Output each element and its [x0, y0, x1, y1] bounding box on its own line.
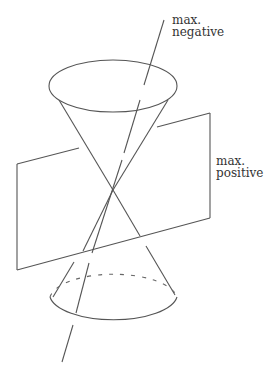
lower-cone-right-side-upper	[113, 190, 140, 236]
axis-lower-inner-segment	[76, 263, 89, 313]
lower-cone-rim-back	[50, 274, 177, 297]
upper-cone-rim	[49, 60, 177, 112]
axis-label-max-negative: max. negative	[172, 14, 224, 38]
axis-upper-inner-segment	[124, 100, 140, 153]
axis-middle-segment	[92, 160, 122, 253]
plane-top-edge-right	[157, 113, 210, 127]
lower-cone-right-side-lower	[146, 246, 175, 295]
plane-top-edge-left	[17, 148, 79, 164]
lower-cone-left-side-lower	[53, 262, 74, 297]
double-cone-diagram: max. negative max. positive	[0, 0, 272, 376]
upper-cone-right-side	[113, 100, 168, 190]
plane-label-max-positive: max. positive	[216, 155, 263, 179]
lower-cone-rim-front	[50, 297, 177, 320]
plane-bottom-edge	[17, 218, 210, 270]
axis-bottom-segment	[62, 325, 73, 362]
axis-label-line2: negative	[172, 26, 224, 38]
upper-cone-left-side	[59, 100, 113, 190]
lower-cone-left-side-upper	[83, 190, 113, 251]
axis-top-segment	[144, 20, 164, 85]
plane-label-line2: positive	[216, 167, 263, 179]
lower-cone	[50, 190, 177, 320]
upper-cone	[49, 60, 177, 190]
diagram-canvas	[0, 0, 272, 376]
